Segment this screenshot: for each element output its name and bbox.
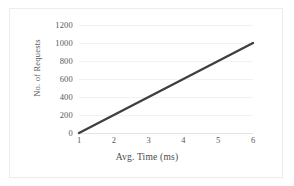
- x-tick-label: 6: [241, 136, 265, 145]
- x-tick-label: 1: [67, 136, 91, 145]
- y-tick-label: 200: [23, 111, 73, 120]
- data-line-segment: [79, 43, 253, 133]
- x-tick-label: 5: [206, 136, 230, 145]
- x-tick-label: 2: [102, 136, 126, 145]
- y-axis-tick-labels: 1200 1000 800 600 400 200 0 No. of Reque…: [19, 25, 73, 133]
- x-tick-label: 4: [171, 136, 195, 145]
- x-tick-label: 3: [137, 136, 161, 145]
- chart-figure: 1200 1000 800 600 400 200 0 No. of Reque…: [9, 8, 283, 178]
- y-tick-label: 1200: [23, 21, 73, 30]
- y-tick-label: 600: [23, 75, 73, 84]
- y-tick-label: 400: [23, 93, 73, 102]
- series-line-no-of-requests: [79, 25, 253, 133]
- x-axis-tick-labels: 1 2 3 4 5 6: [79, 136, 253, 150]
- y-tick-label: 800: [23, 57, 73, 66]
- plot-area: [79, 25, 253, 133]
- y-tick-label: 1000: [23, 39, 73, 48]
- y-axis-title: No. of Requests: [32, 22, 42, 114]
- x-axis-title: Avg. Time (ms): [10, 152, 284, 162]
- axis-baseline: [79, 133, 253, 134]
- y-tick-label: 0: [23, 129, 73, 138]
